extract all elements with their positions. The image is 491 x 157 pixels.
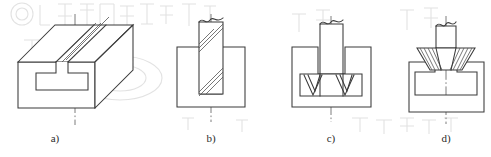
caption-b: b) xyxy=(206,132,216,145)
panel-b-cutter-body xyxy=(199,22,223,94)
caption-a: a) xyxy=(51,132,60,145)
panel-a-isometric-block xyxy=(18,14,133,125)
panel-b-end-mill xyxy=(177,14,245,122)
panel-c-t-slot-cutter xyxy=(292,16,371,122)
panel-c-cutter-shank xyxy=(320,24,343,74)
caption-d: d) xyxy=(441,132,451,145)
caption-c: c) xyxy=(327,132,336,145)
figure-plate: a) b) c) d) xyxy=(0,0,491,157)
technical-drawing-canvas: a) b) c) d) xyxy=(0,0,491,157)
panel-d-angle-cutter xyxy=(409,16,484,124)
panel-d-cutter-shank xyxy=(436,26,456,48)
